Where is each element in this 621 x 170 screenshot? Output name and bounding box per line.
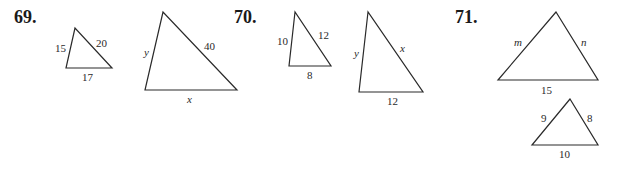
side-label-right: 40 xyxy=(204,40,216,52)
side-label-left: m xyxy=(514,36,522,48)
side-label-bottom: 12 xyxy=(387,95,398,107)
side-label-bottom: 15 xyxy=(541,84,553,96)
triangle-71-large: m n 15 xyxy=(498,12,598,96)
triangle-70-large: y x 12 xyxy=(353,12,423,107)
side-label-bottom: 17 xyxy=(82,71,94,83)
triangle-shape xyxy=(359,12,423,92)
triangle-69-large: y 40 x xyxy=(143,12,237,105)
side-label-left: 9 xyxy=(541,112,547,124)
side-label-bottom: 8 xyxy=(307,69,313,81)
problem-70-figures: 10 12 8 y x 12 xyxy=(277,12,423,107)
side-label-right: n xyxy=(581,36,587,48)
triangle-69-small: 15 20 17 xyxy=(55,28,112,83)
side-label-right: 20 xyxy=(96,37,108,49)
side-label-left: 15 xyxy=(55,42,67,54)
triangle-shape xyxy=(145,12,237,90)
similar-triangles-figure: 15 20 17 y 40 x 10 12 8 y x 12 m n xyxy=(0,0,621,170)
problem-69-figures: 15 20 17 y 40 x xyxy=(55,12,237,105)
side-label-right: 8 xyxy=(587,112,593,124)
side-label-left: y xyxy=(143,46,149,58)
side-label-left: y xyxy=(353,47,359,59)
triangle-71-small: 9 8 10 xyxy=(532,99,598,160)
triangle-70-small: 10 12 8 xyxy=(277,12,331,81)
side-label-right: x xyxy=(399,42,405,54)
side-label-bottom: 10 xyxy=(559,148,571,160)
side-label-left: 10 xyxy=(277,35,289,47)
side-label-right: 12 xyxy=(318,29,329,41)
problem-71-figures: m n 15 9 8 10 xyxy=(498,12,598,160)
side-label-bottom: x xyxy=(186,93,192,105)
